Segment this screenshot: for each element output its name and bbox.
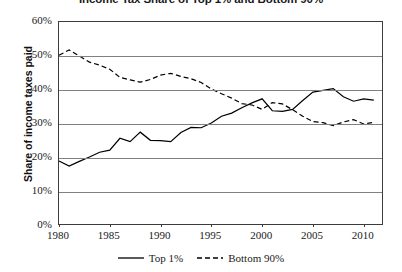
legend-label: Top 1%: [149, 252, 183, 264]
gridline-10: [59, 192, 382, 193]
x-tick-label-1995: 1995: [190, 229, 230, 241]
y-tick-label-50: 50%: [6, 49, 52, 60]
x-tick-mark-1990: [161, 224, 162, 227]
x-tick-mark-1995: [211, 224, 212, 227]
x-tick-label-2005: 2005: [292, 229, 332, 241]
legend-swatch-solid-icon: [118, 254, 144, 262]
chart-title: Income Tax Share of Top 1% and Bottom 90…: [0, 0, 402, 5]
series-line-bottom-90: [59, 50, 374, 126]
gridline-20: [59, 158, 382, 159]
y-tick-label-40: 40%: [6, 83, 52, 94]
chart-legend: Top 1%Bottom 90%: [0, 252, 402, 264]
y-tick-label-60: 60%: [6, 15, 52, 26]
x-tick-label-2010: 2010: [343, 229, 383, 241]
x-tick-mark-2000: [262, 224, 263, 227]
gridline-50: [59, 56, 382, 57]
y-tick-label-20: 20%: [6, 151, 52, 162]
x-tick-label-2000: 2000: [241, 229, 281, 241]
x-tick-label-1985: 1985: [89, 229, 129, 241]
legend-item-top-1[interactable]: Top 1%: [118, 252, 183, 264]
legend-item-bottom-90[interactable]: Bottom 90%: [197, 252, 284, 264]
plot-area: [58, 21, 383, 225]
y-tick-label-30: 30%: [6, 117, 52, 128]
income-tax-share-chart: Income Tax Share of Top 1% and Bottom 90…: [0, 0, 402, 272]
x-tick-label-1980: 1980: [38, 229, 78, 241]
x-tick-mark-1980: [59, 224, 60, 227]
x-tick-label-1990: 1990: [140, 229, 180, 241]
legend-label: Bottom 90%: [228, 252, 284, 264]
y-tick-label-10: 10%: [6, 185, 52, 196]
series-line-top-1: [59, 89, 374, 167]
x-tick-mark-2010: [364, 224, 365, 227]
legend-swatch-dashed-icon: [197, 254, 223, 262]
x-axis-tick-labels: 1980198519901995200020052010: [0, 229, 402, 245]
x-tick-mark-1985: [110, 224, 111, 227]
gridline-30: [59, 124, 382, 125]
x-tick-mark-2005: [313, 224, 314, 227]
gridline-40: [59, 90, 382, 91]
